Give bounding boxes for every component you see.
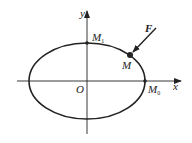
point-m	[127, 52, 133, 58]
m0-label: M0	[147, 83, 160, 96]
m-label: M	[121, 59, 132, 71]
point-m0	[143, 79, 147, 83]
point-m1	[85, 41, 89, 45]
m1-label: M1	[91, 31, 104, 44]
ellipse-force-diagram: y x O M1 M M0 F	[0, 0, 192, 143]
force-label: F	[144, 22, 153, 34]
x-axis-label: x	[172, 80, 178, 92]
origin-label: O	[76, 83, 84, 95]
y-axis-label: y	[79, 7, 85, 19]
